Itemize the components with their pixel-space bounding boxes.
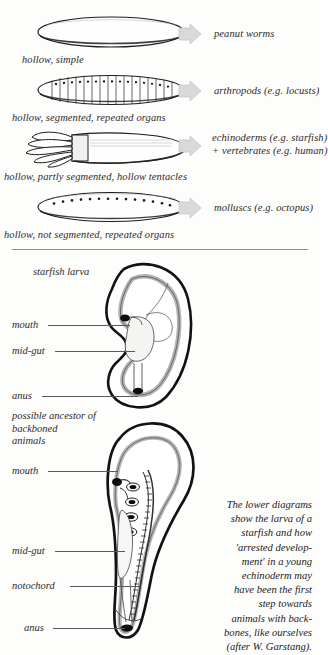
block-arrow-right-icon-molluscs [178, 197, 202, 219]
body-plan-diagram-peanut-worms [36, 14, 186, 50]
section-divider [12, 249, 308, 250]
side-caption-line-2: show the larva of a [190, 512, 312, 526]
starfish-larva-diagram [88, 257, 200, 409]
block-arrow-right-icon-echinoderms [178, 135, 202, 157]
group-label-echinoderms: echinoderms (e.g. starfish) [212, 132, 327, 143]
body-plan-diagram-arthropods [36, 73, 186, 107]
ancestor-larva-diagram [86, 414, 204, 642]
group-label-molluscs: molluscs (e.g. octopus) [214, 202, 313, 213]
upper-diagram-title: starfish larva [33, 266, 89, 277]
block-arrow-right-icon-peanut-worms [178, 23, 202, 45]
body-plan-diagram-molluscs [36, 190, 186, 224]
leader-line-lower-mouth [48, 471, 118, 472]
side-caption-line-11: (after W. Garstang). [190, 640, 312, 654]
lower-label-mouth: mouth [12, 465, 38, 476]
leader-line-upper-mouth [48, 325, 130, 326]
leader-line-lower-mid-gut [55, 551, 125, 552]
side-caption-line-3: starfish and how [190, 526, 312, 540]
body-plan-caption-peanut-worms: hollow, simple [22, 54, 84, 65]
body-plan-caption-echinoderms: hollow, partly segmented, hollow tentacl… [4, 171, 187, 182]
upper-label-mid-gut: mid-gut [12, 345, 45, 356]
body-plan-caption-arthropods: hollow, segmented, repeated organs [12, 112, 166, 123]
upper-label-mouth: mouth [12, 319, 38, 330]
leader-line-upper-anus [42, 396, 138, 397]
side-caption-line-4: 'arrested develop- [190, 541, 312, 555]
lower-label-mid-gut: mid-gut [12, 545, 45, 556]
side-caption-line-5: ment' in a young [190, 555, 312, 569]
group-label-arthropods: arthropods (e.g. locusts) [214, 85, 319, 96]
side-caption-line-8: step towards [190, 597, 312, 611]
side-caption-line-1: The lower diagrams [190, 498, 312, 512]
upper-label-anus: anus [12, 390, 32, 401]
lower-label-notochord: notochord [12, 580, 55, 591]
lower-label-anus: anus [24, 622, 44, 633]
leader-line-lower-notochord [70, 586, 140, 587]
group-label-vertebrates: + vertebrates (e.g. human) [212, 145, 328, 156]
side-caption-line-7: have been the first [190, 583, 312, 597]
side-caption-line-10: bones, like ourselves [190, 626, 312, 640]
side-caption-line-6: echinoderm may [190, 569, 312, 583]
group-label-peanut-worms: peanut worms [214, 28, 274, 39]
block-arrow-right-icon-arthropods [178, 80, 202, 102]
body-plan-diagram-echinoderms [20, 128, 190, 168]
side-caption-line-9: animals with back- [190, 612, 312, 626]
leader-line-lower-anus [53, 628, 125, 629]
leader-line-upper-mid-gut [55, 351, 135, 352]
body-plan-caption-molluscs: hollow, not segmented, repeated organs [4, 229, 174, 240]
side-caption: The lower diagrams show the larva of a s… [190, 498, 312, 654]
